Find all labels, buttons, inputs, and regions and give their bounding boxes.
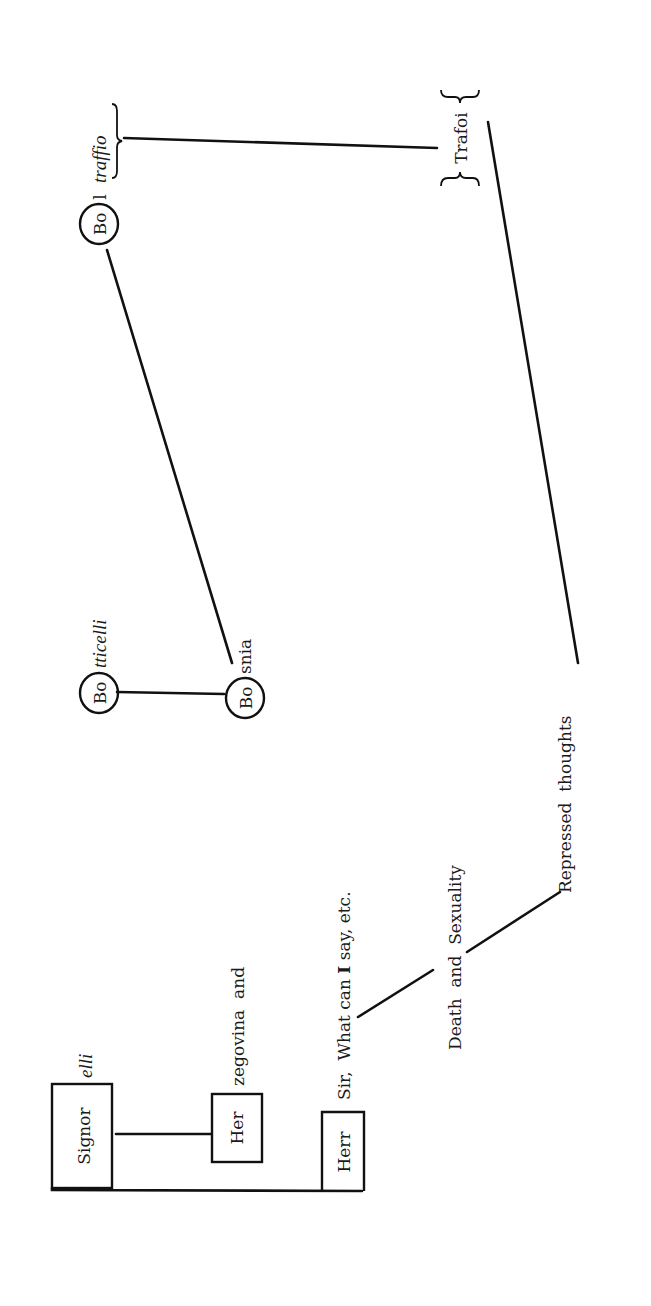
- traffio-label: traffio: [89, 135, 110, 183]
- node-herzegovina: Her zegovina and: [212, 967, 262, 1162]
- death-and-sexuality-label: Death and Sexuality: [445, 865, 465, 1050]
- traffio-brace: [112, 104, 122, 178]
- trafoi-label: Trafoi: [451, 112, 471, 164]
- repressed-thoughts-label: Repressed thoughts: [555, 716, 575, 893]
- node-trafoi: Trafoi: [441, 90, 479, 186]
- node-boltraffio: Bo l traffio: [80, 104, 122, 244]
- edge-botticelli-bosnia: [117, 692, 224, 694]
- elli-suffix: elli: [75, 1054, 96, 1078]
- signor-label: Signor: [74, 1106, 94, 1164]
- trafoi-brace-top: [441, 90, 479, 103]
- edge-trafoi-traffio: [124, 138, 437, 148]
- edge-boltraffio-bosnia: [107, 250, 232, 663]
- node-botticelli: Bo tticelli: [80, 619, 118, 713]
- bo-label-bosnia: Bo: [236, 687, 256, 710]
- node-bosnia: Bo snia: [226, 639, 264, 718]
- edge-herr-death: [358, 970, 433, 1017]
- node-signorelli: Signor elli: [52, 1054, 112, 1188]
- sir-what-can-i-say-text: Sir, What can I say, etc.: [334, 891, 354, 1100]
- tticelli-suffix: tticelli: [89, 619, 110, 668]
- l-letter: l: [90, 194, 110, 199]
- trafoi-brace-bottom: [441, 172, 479, 186]
- edge-repressed-trafoi: [488, 122, 578, 663]
- node-herr: Herr Sir, What can I say, etc.: [322, 891, 364, 1191]
- snia-suffix: snia: [235, 639, 255, 674]
- edge-death-repressed: [467, 892, 560, 952]
- bo-label-boltraffio: Bo: [90, 213, 110, 236]
- her-label: Her: [227, 1111, 247, 1145]
- bo-label-botticelli: Bo: [90, 682, 110, 705]
- signorelli-diagram: Signor elli Her zegovina and Herr Sir, W…: [0, 0, 651, 1306]
- zegovina-suffix: zegovina and: [228, 967, 248, 1086]
- herr-label: Herr: [334, 1131, 354, 1173]
